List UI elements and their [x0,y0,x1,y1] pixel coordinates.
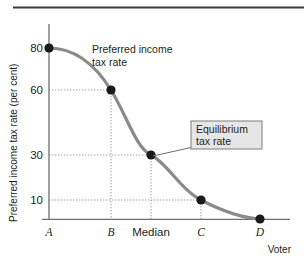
data-point-median [146,150,155,159]
data-point-C [196,195,205,204]
equilibrium-callout[interactable]: Equilibrium tax rate [191,121,262,149]
x-tick-C: C [197,226,205,238]
curve-label-line1: Preferred income [92,43,173,55]
equilibrium-leader-line [153,148,191,157]
data-point-D [255,214,264,223]
curve-label: Preferred income tax rate [92,43,173,68]
data-point-A [44,43,53,52]
y-tick-30: 30 [30,149,43,161]
preferred-tax-rate-chart: Preferred income tax rate (per cent) [0,0,304,264]
gridlines-horizontal [49,90,201,200]
y-tick-80: 80 [30,42,43,54]
y-tick-labels: 80 60 30 10 [30,42,43,206]
equilibrium-callout-line1: Equilibrium [196,123,248,135]
curve-label-line2: tax rate [92,56,127,68]
x-tick-B: B [107,226,114,238]
x-tick-A: A [44,226,53,238]
x-tick-median: Median [132,226,170,238]
x-tick-labels: A B Median C D [44,226,264,238]
data-point-B [106,85,115,94]
equilibrium-callout-line2: tax rate [196,135,231,147]
x-tick-D: D [255,226,265,238]
x-axis-title: Voter [268,244,292,255]
y-tick-10: 10 [30,194,43,206]
y-axis-title: Preferred income tax rate (per cent) [8,64,19,222]
y-tick-60: 60 [30,84,43,96]
figure-container: Preferred income tax rate (per cent) [0,0,304,264]
